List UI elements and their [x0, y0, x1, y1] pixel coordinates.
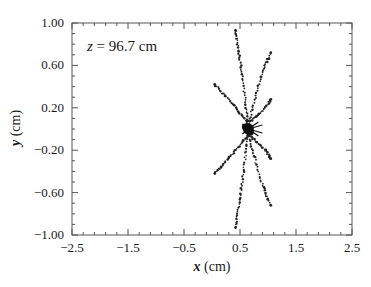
x-tick-label: −2.5 [60, 240, 84, 255]
plot-frame [72, 23, 352, 235]
x-tick-label: 1.5 [288, 240, 304, 255]
y-axis-label: y (cm) [8, 110, 24, 148]
x-tick-label: −0.5 [172, 240, 196, 255]
center-cluster [242, 122, 263, 136]
x-tick-label: 0.5 [232, 240, 248, 255]
y-tick-label: 0.20 [41, 100, 64, 115]
x-tick-labels: −2.5−1.5−0.50.51.52.5 [60, 240, 360, 255]
axis-ticks [72, 23, 352, 235]
y-tick-labels: 1.000.600.20−0.20−0.60−1.00 [34, 15, 64, 242]
x-tick-label: −1.5 [116, 240, 140, 255]
x-axis-label: x (cm) [193, 259, 231, 275]
z-annotation: z = 96.7 cm [86, 38, 157, 54]
y-tick-label: −0.20 [34, 142, 64, 157]
y-tick-label: −0.60 [34, 185, 64, 200]
y-tick-label: 1.00 [41, 15, 64, 30]
y-tick-label: 0.60 [41, 57, 64, 72]
y-tick-label: −1.00 [34, 227, 64, 242]
scatter-chart: −2.5−1.5−0.50.51.52.5 1.000.600.20−0.20−… [0, 0, 371, 287]
x-tick-label: 2.5 [344, 240, 360, 255]
